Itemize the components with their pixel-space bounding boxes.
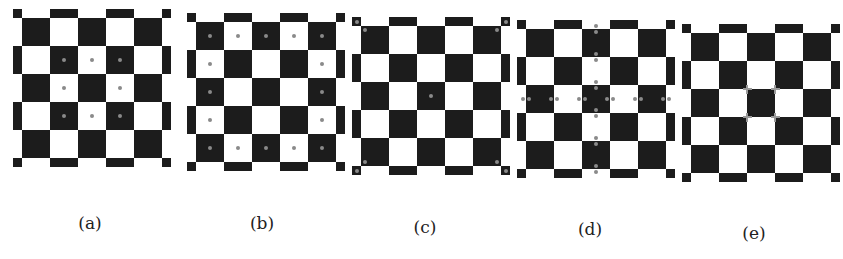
- marker-dot: [594, 80, 598, 84]
- marker-cross: [743, 85, 752, 94]
- edge-tab: [445, 166, 473, 175]
- light-square: [106, 130, 134, 158]
- edge-tab: [831, 61, 840, 89]
- dark-square: [389, 54, 417, 82]
- corner-tab: [162, 158, 171, 167]
- edge-tab: [610, 169, 638, 178]
- dark-square: [280, 50, 308, 78]
- marker-dot: [577, 97, 581, 101]
- marker-dot: [594, 24, 598, 28]
- marker-dot: [495, 28, 499, 32]
- marker-dot: [504, 20, 508, 24]
- dark-square: [224, 50, 252, 78]
- marker-dot: [594, 52, 598, 56]
- marker-dot: [320, 146, 324, 150]
- marker-dot: [661, 97, 665, 101]
- marker-dot: [320, 34, 324, 38]
- marker-dot: [363, 160, 367, 164]
- marker-dot: [320, 118, 324, 122]
- marker-dot: [605, 97, 609, 101]
- marker-dot: [611, 97, 615, 101]
- marker-dot: [236, 34, 240, 38]
- dark-square: [22, 18, 50, 46]
- corner-tab: [187, 162, 196, 171]
- marker-dot: [633, 97, 637, 101]
- light-square: [361, 110, 389, 138]
- marker-dot: [594, 142, 598, 146]
- marker-dot: [355, 169, 359, 173]
- light-square: [224, 78, 252, 106]
- edge-tab: [224, 162, 252, 171]
- light-square: [252, 50, 280, 78]
- marker-dot: [429, 94, 433, 98]
- marker-dot: [264, 34, 268, 38]
- edge-tab: [775, 173, 803, 182]
- marker-dot: [521, 97, 525, 101]
- light-square: [389, 26, 417, 54]
- marker-dot: [527, 97, 531, 101]
- edge-tab: [280, 13, 308, 22]
- edge-tab: [13, 46, 22, 74]
- marker-dot: [594, 108, 598, 112]
- dark-square: [280, 106, 308, 134]
- corner-tab: [517, 20, 526, 29]
- edge-tab: [831, 117, 840, 145]
- dark-square: [78, 18, 106, 46]
- dark-square: [445, 110, 473, 138]
- marker-dot: [62, 114, 66, 118]
- dark-square: [747, 145, 775, 173]
- light-square: [775, 145, 803, 173]
- dark-square: [526, 141, 554, 169]
- light-square: [691, 117, 719, 145]
- light-square: [280, 78, 308, 106]
- edge-tab: [187, 50, 196, 78]
- light-square: [445, 26, 473, 54]
- marker-dot: [594, 136, 598, 140]
- dark-square: [78, 74, 106, 102]
- dark-square: [389, 110, 417, 138]
- edge-tab: [554, 20, 582, 29]
- light-square: [22, 46, 50, 74]
- edge-tab: [50, 158, 78, 167]
- corner-tab: [162, 9, 171, 18]
- marker-dot: [594, 86, 598, 90]
- corner-tab: [336, 13, 345, 22]
- dark-square: [554, 57, 582, 85]
- edge-tab: [666, 113, 675, 141]
- label-e: (e): [724, 223, 784, 243]
- corner-tab: [336, 162, 345, 171]
- marker-dot: [90, 114, 94, 118]
- marker-cross: [771, 113, 780, 122]
- dark-square: [473, 82, 501, 110]
- edge-tab: [775, 24, 803, 33]
- dark-square: [361, 82, 389, 110]
- marker-dot: [594, 30, 598, 34]
- light-square: [473, 110, 501, 138]
- marker-dot: [264, 146, 268, 150]
- dark-square: [22, 130, 50, 158]
- corner-tab: [517, 169, 526, 178]
- dark-square: [22, 74, 50, 102]
- light-square: [445, 82, 473, 110]
- edge-tab: [554, 169, 582, 178]
- marker-dot: [208, 62, 212, 66]
- marker-dot: [118, 58, 122, 62]
- dark-square: [134, 18, 162, 46]
- light-square: [526, 57, 554, 85]
- dark-square: [691, 89, 719, 117]
- light-square: [417, 54, 445, 82]
- dark-square: [224, 106, 252, 134]
- marker-dot: [118, 86, 122, 90]
- dark-square: [445, 54, 473, 82]
- corner-tab: [831, 24, 840, 33]
- edge-tab: [352, 54, 361, 82]
- edge-tab: [682, 61, 691, 89]
- marker-dot: [90, 58, 94, 62]
- label-d: (d): [560, 219, 620, 239]
- edge-tab: [501, 110, 510, 138]
- light-square: [389, 138, 417, 166]
- marker-dot: [583, 97, 587, 101]
- marker-dot: [504, 169, 508, 173]
- light-square: [554, 141, 582, 169]
- dark-square: [252, 78, 280, 106]
